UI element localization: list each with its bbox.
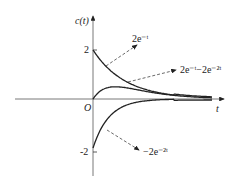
arrow-neg-2e-2t (107, 130, 139, 150)
origin-label: O (84, 103, 91, 113)
label-neg-2e-2t: −2e⁻²ᵗ (143, 147, 168, 157)
response-curves-chart (0, 0, 235, 185)
label-2e-t: 2e⁻ᵗ (132, 34, 148, 44)
x-axis-label: t (216, 104, 219, 114)
y-axis-label: c(t) (75, 16, 89, 26)
curve-2e-t-minus-2e-2t (93, 87, 212, 99)
arrow-2e-t-minus-2e-2t (128, 70, 176, 82)
arrow-2e-t (106, 45, 137, 66)
curve-neg-2e-2t (93, 99, 212, 148)
ytick-label-neg2: -2 (80, 147, 88, 157)
ytick-label-2: 2 (84, 45, 89, 55)
label-2e-t-minus-2e-2t: 2e⁻ᵗ−2e⁻²ᵗ (180, 65, 221, 75)
